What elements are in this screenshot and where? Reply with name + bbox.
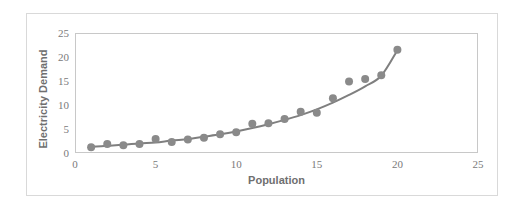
- data-point: [103, 140, 111, 148]
- x-tick-label: 10: [231, 159, 242, 170]
- data-points-group: [87, 46, 401, 151]
- data-point: [232, 128, 240, 136]
- data-point: [248, 120, 256, 128]
- trendline: [91, 50, 397, 146]
- data-point: [377, 71, 385, 79]
- x-tick-label: 15: [311, 159, 322, 170]
- data-point: [168, 138, 176, 146]
- x-tick-label: 20: [392, 159, 403, 170]
- data-point: [281, 115, 289, 123]
- data-point: [184, 136, 192, 144]
- data-point: [313, 109, 321, 117]
- y-axis-title: Electricity Demand: [37, 39, 49, 159]
- data-point: [329, 94, 337, 102]
- data-point: [393, 46, 401, 54]
- x-axis-title: Population: [75, 174, 478, 186]
- x-tick-label: 0: [72, 159, 78, 170]
- data-point: [361, 75, 369, 83]
- data-point: [152, 135, 160, 143]
- x-tick-label: 5: [153, 159, 159, 170]
- y-tick-label: 25: [39, 28, 69, 39]
- data-point: [297, 108, 305, 116]
- data-point: [264, 119, 272, 127]
- data-point: [119, 141, 127, 149]
- data-point: [135, 140, 143, 148]
- data-point: [87, 143, 95, 151]
- trendline-group: [91, 50, 397, 146]
- x-tick-label: 25: [473, 159, 484, 170]
- chart-figure: 0510152025 0510152025 Population Electri…: [0, 0, 522, 210]
- data-point: [200, 134, 208, 142]
- data-point: [216, 130, 224, 138]
- data-point: [345, 77, 353, 85]
